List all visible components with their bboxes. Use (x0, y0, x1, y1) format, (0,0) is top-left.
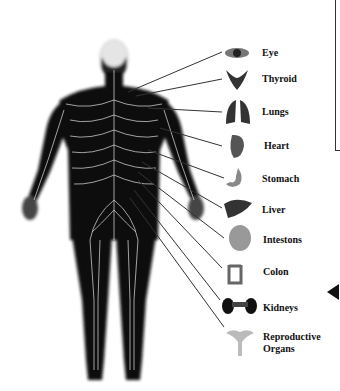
organ-label-thyroid: Thyroid (262, 73, 297, 85)
organ-label-reproductive-line1: Reproductive (263, 331, 321, 342)
organ-label-liver: Liver (262, 204, 285, 216)
reproductive-organs-icon (226, 330, 254, 356)
organ-label-eye: Eye (262, 47, 278, 59)
eye-icon (225, 48, 249, 58)
human-body-figure (22, 39, 204, 380)
liver-icon (224, 200, 252, 218)
organ-label-intestines: Intestons (263, 234, 302, 246)
organ-label-stomach: Stomach (262, 173, 299, 185)
heart-icon (230, 135, 244, 158)
organ-icons (222, 48, 257, 356)
organ-label-reproductive-line2: Organs (263, 343, 295, 354)
organ-label-colon: Colon (263, 266, 289, 278)
thyroid-icon (226, 70, 248, 90)
colon-icon (229, 265, 241, 283)
lungs-icon (226, 100, 250, 124)
organ-label-reproductive: Reproductive Organs (263, 331, 321, 355)
organ-label-lungs: Lungs (262, 106, 289, 118)
left-arrow-icon (327, 284, 339, 300)
stomach-icon (226, 168, 242, 187)
organ-label-heart: Heart (264, 140, 289, 152)
kidneys-icon (222, 298, 257, 314)
intestines-icon (229, 225, 251, 251)
side-panel-frame (335, 0, 340, 151)
organ-label-kidneys: Kidneys (263, 302, 298, 314)
